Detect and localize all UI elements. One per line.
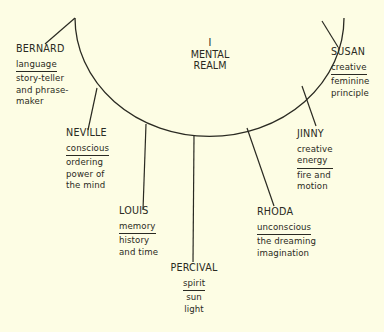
character-name: LOUIS (119, 205, 158, 217)
node-susan: SUSAN creative feminine principle (331, 46, 369, 99)
primary-attribute: language (16, 59, 57, 73)
node-bernard: BERNARD language story-teller and phrase… (16, 43, 69, 108)
spoke-neville (88, 88, 97, 130)
secondary-attribute: feminine principle (331, 76, 369, 99)
center-title: I MENTAL REALM (170, 37, 250, 72)
spoke-susan (322, 21, 338, 47)
spoke-bernard (45, 18, 75, 44)
secondary-attribute: fire and motion (297, 170, 333, 193)
primary-attribute: conscious (66, 143, 109, 157)
node-louis: LOUIS memory history and time (119, 205, 158, 258)
node-rhoda: RHODA unconscious the dreaming imaginati… (257, 206, 316, 259)
node-percival: PERCIVAL spirit sun light (162, 262, 226, 315)
node-neville: NEVILLE conscious ordering power of the … (66, 127, 109, 192)
title-line1: MENTAL (170, 49, 250, 61)
node-jinny: JINNY creative energy fire and motion (297, 128, 333, 193)
primary-attribute: creative energy (297, 144, 333, 169)
character-name: SUSAN (331, 46, 369, 58)
spoke-louis (143, 124, 146, 210)
character-name: PERCIVAL (162, 262, 226, 274)
secondary-attribute: story-teller and phrase- maker (16, 73, 69, 108)
primary-attribute: unconscious (257, 222, 311, 236)
title-line2: REALM (170, 60, 250, 72)
primary-attribute: creative (331, 62, 367, 76)
character-name: RHODA (257, 206, 316, 218)
spoke-percival (193, 136, 194, 262)
character-name: JINNY (297, 128, 333, 140)
secondary-attribute: the dreaming imagination (257, 236, 316, 259)
primary-attribute: spirit (183, 278, 205, 292)
character-name: BERNARD (16, 43, 69, 55)
mental-realm-arc (75, 18, 344, 136)
secondary-attribute: ordering power of the mind (66, 157, 109, 192)
title-numeral: I (170, 37, 250, 49)
character-name: NEVILLE (66, 127, 109, 139)
primary-attribute: memory (119, 221, 156, 235)
secondary-attribute: history and time (119, 235, 158, 258)
secondary-attribute: sun light (162, 292, 226, 315)
spoke-rhoda (247, 128, 274, 206)
